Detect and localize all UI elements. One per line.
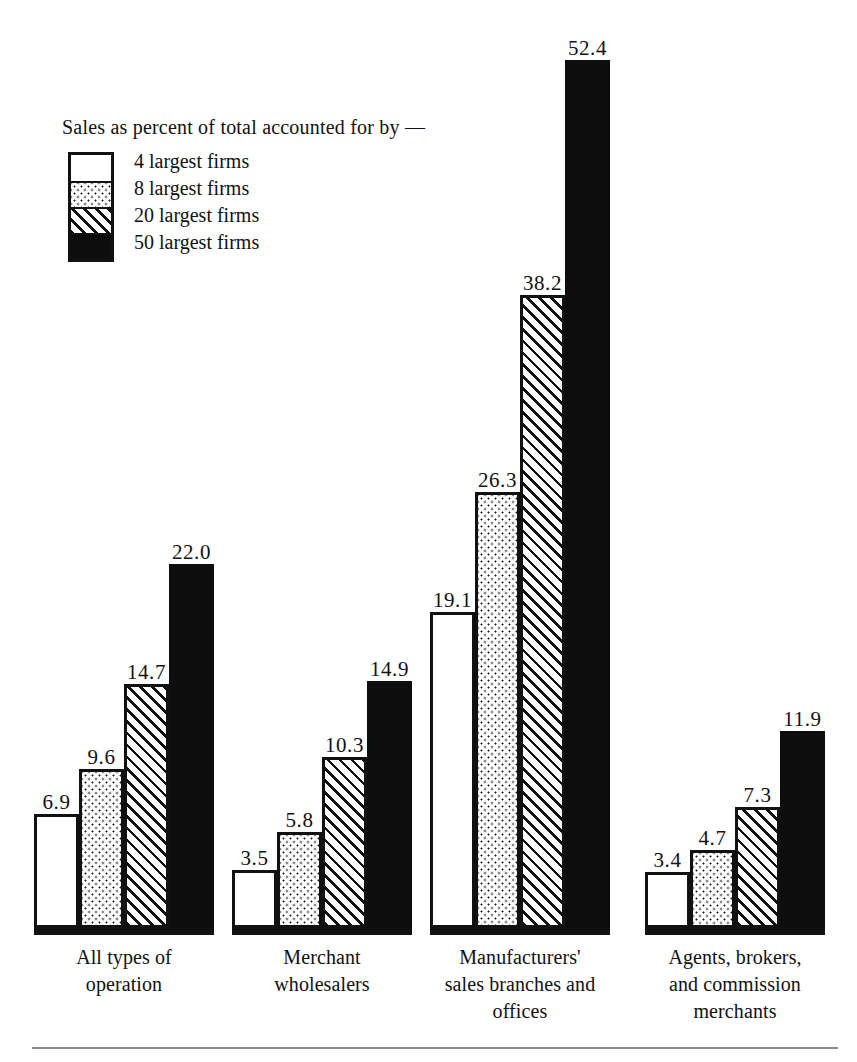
bar-value-label: 6.9 <box>42 791 70 813</box>
bar: 38.2 <box>520 295 565 928</box>
bar-value-label: 38.2 <box>523 272 562 294</box>
group-baseline <box>34 928 214 935</box>
group-baseline <box>232 928 412 935</box>
category-label-line: Manufacturers' <box>400 944 640 971</box>
category-label-line: merchants <box>615 998 855 1025</box>
bar-value-label: 3.4 <box>653 849 681 871</box>
plot-area: 6.99.614.722.03.55.810.314.919.126.338.2… <box>0 0 857 935</box>
bar-group: 3.55.810.314.9 <box>232 0 412 935</box>
bar-value-label: 19.1 <box>433 589 472 611</box>
bar-value-label: 26.3 <box>478 469 517 491</box>
bar: 14.7 <box>124 684 169 928</box>
category-label-line: Agents, brokers, <box>615 944 855 971</box>
bar-value-label: 14.7 <box>127 661 166 683</box>
bar-value-label: 52.4 <box>568 37 607 59</box>
bar-group: 3.44.77.311.9 <box>645 0 825 935</box>
bar-value-label: 4.7 <box>698 827 726 849</box>
category-label: Manufacturers'sales branches andoffices <box>400 944 640 1025</box>
bar: 10.3 <box>322 757 367 928</box>
bar: 3.5 <box>232 870 277 928</box>
category-label-line: sales branches and <box>400 971 640 998</box>
bar-value-label: 3.5 <box>240 847 268 869</box>
bar: 52.4 <box>565 60 610 928</box>
group-baseline <box>430 928 610 935</box>
bar-chart-figure: Sales as percent of total accounted for … <box>0 0 857 1062</box>
bar-value-label: 14.9 <box>370 658 409 680</box>
bar-value-label: 10.3 <box>325 734 364 756</box>
bar-value-label: 5.8 <box>285 809 313 831</box>
bar-value-label: 7.3 <box>743 784 771 806</box>
category-label-line: offices <box>400 998 640 1025</box>
bar: 14.9 <box>367 681 412 928</box>
bar: 5.8 <box>277 832 322 928</box>
bar-value-label: 9.6 <box>87 746 115 768</box>
bar-group: 19.126.338.252.4 <box>430 0 610 935</box>
bar: 11.9 <box>780 731 825 928</box>
bottom-rule <box>32 1047 838 1049</box>
bar: 22.0 <box>169 564 214 928</box>
group-baseline <box>645 928 825 935</box>
bar-group: 6.99.614.722.0 <box>34 0 214 935</box>
bar: 26.3 <box>475 492 520 928</box>
bar: 19.1 <box>430 612 475 928</box>
bar: 3.4 <box>645 872 690 928</box>
bar: 7.3 <box>735 807 780 928</box>
bar: 4.7 <box>690 850 735 928</box>
bar: 6.9 <box>34 814 79 928</box>
category-label: Agents, brokers,and commissionmerchants <box>615 944 855 1025</box>
bar: 9.6 <box>79 769 124 928</box>
bar-value-label: 22.0 <box>172 541 211 563</box>
category-label-line: and commission <box>615 971 855 998</box>
bar-value-label: 11.9 <box>783 708 821 730</box>
